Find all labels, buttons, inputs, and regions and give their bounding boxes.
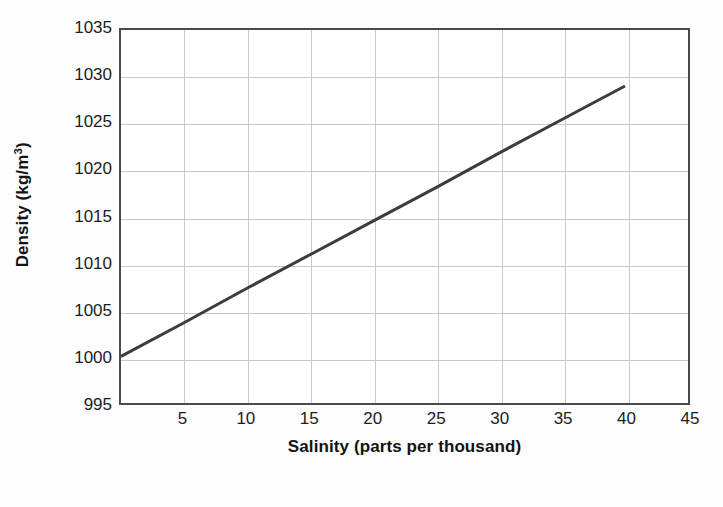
y-axis-tick-labels: 10351030102510201015101010051000995: [50, 28, 112, 405]
data-series-line: [121, 30, 688, 403]
y-tick-label: 1010: [54, 254, 112, 274]
x-tick-label: 35: [538, 409, 588, 429]
x-axis-tick-labels: 51015202530354045: [119, 409, 690, 435]
x-axis-title: Salinity (parts per thousand): [119, 437, 690, 457]
y-tick-label: 1000: [54, 348, 112, 368]
plot-area: [119, 28, 690, 405]
y-tick-label: 995: [54, 395, 112, 415]
series-polyline: [121, 86, 625, 356]
x-tick-label: 15: [284, 409, 334, 429]
y-tick-label: 1035: [54, 18, 112, 38]
x-tick-label: 25: [411, 409, 461, 429]
y-axis-title-text: Density (kg/m3): [12, 142, 34, 267]
y-tick-label: 1025: [54, 112, 112, 132]
x-tick-label: 20: [348, 409, 398, 429]
y-tick-label: 1005: [54, 301, 112, 321]
x-tick-label: 45: [665, 409, 715, 429]
x-tick-label: 40: [602, 409, 652, 429]
y-axis-title-superscript: 3: [12, 148, 24, 155]
x-tick-label: 10: [221, 409, 271, 429]
y-axis-title: Density (kg/m3): [0, 0, 46, 410]
chart-figure: Density (kg/m3) 103510301025102010151010…: [0, 0, 723, 507]
y-tick-label: 1020: [54, 159, 112, 179]
y-tick-label: 1015: [54, 207, 112, 227]
x-tick-label: 5: [157, 409, 207, 429]
x-tick-label: 30: [475, 409, 525, 429]
y-tick-label: 1030: [54, 65, 112, 85]
